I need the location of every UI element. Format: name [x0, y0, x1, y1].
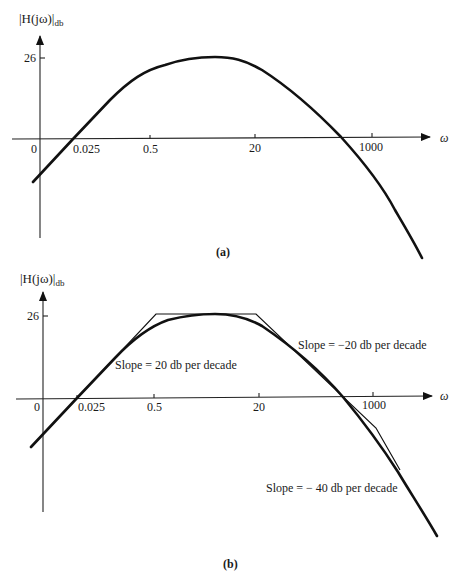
x-tick-label-0.5-a: 0.5 [143, 142, 158, 156]
x-tick-label-0.025-b: 0.025 [78, 400, 105, 414]
x-tick-label-20-a: 20 [249, 141, 261, 155]
x-tick-label-1000-b: 1000 [362, 398, 386, 412]
x-tick-label-0-a: 0 [31, 142, 37, 156]
annotation-slope-20: Slope = 20 db per decade [115, 358, 237, 372]
caption-a: (a) [216, 245, 230, 259]
x-tick-label-20-b: 20 [253, 400, 265, 414]
annotation-slope-minus-20: Slope = −20 db per decade [298, 338, 427, 352]
x-axis-label-omega-b: ω [440, 389, 448, 403]
caption-b: (b) [223, 557, 238, 571]
x-tick-label-0-b: 0 [34, 400, 40, 414]
x-tick-label-1000-a: 1000 [359, 140, 383, 154]
bode-magnitude-figure: |H(jω)|db 26 ω 0 0.025 0.5 20 1000 (a) |… [0, 0, 458, 579]
y-tick-label-26-a: 26 [24, 51, 36, 65]
y-axis-label-b: |H(jω)|db [20, 271, 65, 288]
x-tick-label-0.5-b: 0.5 [147, 400, 162, 414]
figure-b: |H(jω)|db 26 ω 0 0.025 0.5 20 1000 Slope… [16, 271, 448, 571]
figure-a: |H(jω)|db 26 ω 0 0.025 0.5 20 1000 (a) [12, 11, 448, 259]
magnitude-curve-a [33, 57, 422, 258]
annotation-slope-minus-40: Slope = − 40 db per decade [266, 481, 398, 495]
y-axis-label-a: |H(jω)|db [19, 11, 64, 28]
x-axis-label-omega-a: ω [440, 131, 448, 145]
y-tick-label-26-b: 26 [27, 309, 39, 323]
x-tick-label-0.025-a: 0.025 [73, 142, 100, 156]
